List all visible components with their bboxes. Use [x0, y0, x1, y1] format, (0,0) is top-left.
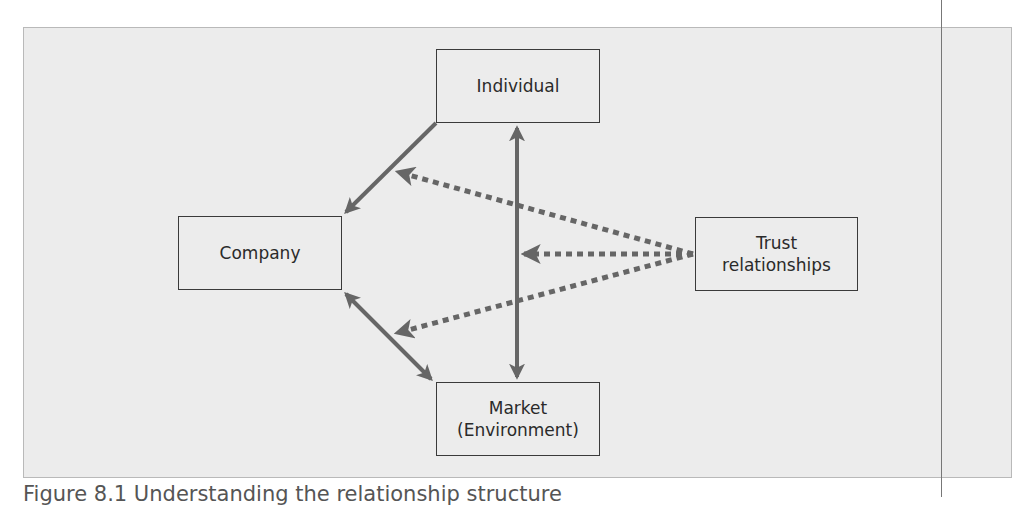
node-individual: Individual: [436, 49, 600, 123]
node-trust-label-line2: relationships: [722, 254, 831, 276]
dotted-arrow-trust-to-company-market: [397, 254, 693, 333]
node-company: Company: [178, 216, 342, 290]
node-market-label-line2: (Environment): [457, 419, 579, 441]
node-trust-label-line1: Trust: [756, 232, 797, 254]
node-company-label: Company: [220, 242, 301, 264]
arrow-company-market: [346, 294, 431, 379]
page-margin-rule: [941, 0, 942, 497]
figure-caption: Figure 8.1 Understanding the relationshi…: [23, 482, 562, 506]
dotted-arrow-trust-to-individual-company: [398, 172, 693, 254]
node-individual-label: Individual: [477, 75, 560, 97]
node-market-label-line1: Market: [489, 397, 547, 419]
node-trust-relationships: Trust relationships: [695, 217, 858, 291]
arrow-individual-to-company: [346, 123, 436, 212]
node-market: Market (Environment): [436, 382, 600, 456]
